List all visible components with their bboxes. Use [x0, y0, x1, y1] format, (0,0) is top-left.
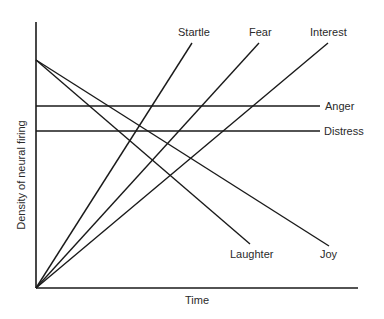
emotion-firing-diagram: Time Density of neural firing StartleFea…	[0, 0, 384, 319]
emotion-labels: StartleFearInterestAngerDistressLaughter…	[178, 26, 364, 260]
label-interest: Interest	[310, 26, 347, 38]
y-axis-label: Density of neural firing	[15, 120, 27, 229]
axes: Time Density of neural firing	[15, 22, 358, 306]
label-startle: Startle	[178, 26, 210, 38]
label-laughter: Laughter	[230, 248, 274, 260]
label-joy: Joy	[320, 248, 338, 260]
line-interest	[36, 43, 328, 288]
label-anger: Anger	[325, 100, 355, 112]
label-distress: Distress	[324, 125, 364, 137]
label-fear: Fear	[249, 26, 272, 38]
line-fear	[36, 43, 259, 288]
x-axis-label: Time	[185, 294, 209, 306]
emotion-lines	[36, 43, 329, 288]
